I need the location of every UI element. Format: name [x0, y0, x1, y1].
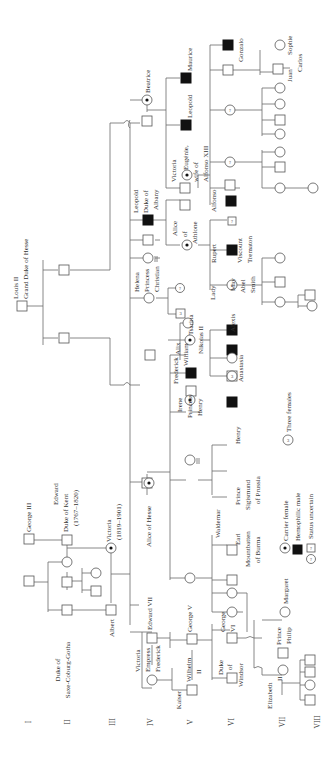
- label-leopold-albany: Albany: [152, 189, 160, 210]
- uncertain-mark: ?: [231, 219, 233, 224]
- label-rupert: Trematon: [246, 236, 254, 263]
- female-symbol-gen6-a: [227, 588, 237, 598]
- legend-hemophilic-male-icon: [293, 545, 302, 554]
- hemophilic-symbol-waldemar: [227, 397, 237, 407]
- male-symbol-gen8-b: [305, 655, 315, 665]
- male-symbol-gen7-b: [275, 162, 285, 172]
- label-edward-kent-dates: (1767–1820): [72, 489, 80, 526]
- male-symbol-gen5-athlone-spouse: [180, 200, 190, 210]
- label-sophie: Sophie: [286, 36, 294, 55]
- male-symbol-gen7-c: [275, 115, 285, 125]
- uncertain-female-gen8-a: [308, 183, 318, 193]
- uncertain-female-gen7-g: [275, 129, 285, 139]
- male-symbol-george-v: [187, 634, 197, 644]
- male-symbol-gen7-a: [275, 277, 285, 287]
- hemophilic-symbol-leopold: [181, 120, 191, 130]
- gen-label-7: VII: [278, 716, 287, 727]
- label-frederick-william: Frederick: [172, 357, 180, 384]
- hemophilic-symbol-alfonso: [226, 196, 236, 206]
- male-symbol-gen2: [62, 577, 72, 587]
- uncertain-female-gen7-e: [275, 83, 285, 93]
- hemophilic-symbol-gonzalo: [223, 40, 233, 50]
- label-prince-philip: Prince: [275, 627, 283, 645]
- uncertain-female-gen8-b: [307, 301, 317, 311]
- label-irene: Princess: [186, 394, 194, 418]
- male-symbol-george-iii: [24, 534, 34, 544]
- label-alice-athlone: of: [181, 231, 189, 238]
- uncertain-mark: ?: [179, 286, 181, 291]
- uncertain-mark: ?: [310, 557, 312, 562]
- male-symbol-edward-vii: [147, 633, 157, 643]
- male-symbol-duke-windsor: [227, 673, 237, 683]
- label-waldemar: Waldemar: [214, 509, 222, 538]
- label-victoria-dates: (1819–1901): [115, 503, 123, 540]
- label-victoria-eugenie: Alfonso XIII: [202, 145, 210, 182]
- label-elizabeth-ii: Elizabeth: [266, 682, 274, 709]
- female-symbol-helena: [144, 293, 154, 303]
- label-empress-frederick: Victoria: [134, 649, 142, 672]
- female-symbol-empress-frederick: [147, 675, 157, 685]
- male-symbol-gen6-a: [227, 575, 237, 585]
- label-george-vi: George: [219, 612, 227, 632]
- uncertain-female-gen7-b: [275, 297, 285, 307]
- gen-label-4: IV: [146, 717, 155, 725]
- male-symbol-edward-kent: [62, 535, 72, 545]
- female-symbol-sophie: [275, 40, 285, 50]
- label-lady-may: Smith: [249, 276, 257, 293]
- hemophilic-symbol-leopold-albany: [143, 215, 153, 225]
- name-labels: George III Edward Duke of Kent (1767–182…: [12, 36, 304, 710]
- male-symbol-gen5-b: [145, 350, 155, 360]
- male-symbol-gen6-c: [223, 65, 233, 75]
- female-symbol-gen4: [143, 253, 153, 263]
- label-victoria-eugenie: wife of: [192, 161, 200, 182]
- hemophilic-symbol-frederick-william: [186, 368, 196, 378]
- female-symbol-elizabeth-ii: [278, 665, 288, 675]
- label-victoria: Victoria: [105, 519, 113, 542]
- legend: Carrier female Hemophilic male ? ? Statu…: [280, 392, 316, 564]
- label-juan-carlos: Carlos: [296, 53, 304, 72]
- label-edward-kent: Duke of Kent: [62, 494, 70, 532]
- gen-label-6: VI: [227, 718, 236, 726]
- label-helena: Helena: [133, 271, 141, 292]
- gen-label-2: II: [63, 719, 72, 724]
- gen-label-5: V: [186, 719, 195, 725]
- male-symbol-george-vi: [227, 633, 237, 643]
- uncertain-mark: ?: [310, 546, 312, 551]
- label-mountbatten: Earl: [234, 533, 242, 545]
- gen-label-8: VIII: [313, 715, 322, 728]
- label-sigismund: Prince: [234, 487, 242, 505]
- relationship-lines: [27, 45, 310, 700]
- label-alexis: Alexis: [229, 313, 237, 332]
- label-edward-kent: Edward: [52, 483, 60, 505]
- male-symbol-gen5-c: [186, 386, 196, 396]
- male-symbol-kaiser-wilhelm: [187, 685, 197, 695]
- label-sigismund: Sigismund: [244, 480, 252, 510]
- male-symbol-henry-battenberg: [142, 116, 152, 126]
- label-empress-frederick: Empress: [144, 648, 152, 672]
- label-kaiser-wilhelm: Kaiser: [175, 690, 183, 709]
- uncertain-mark: ?: [229, 108, 231, 113]
- legend-three-females-label: Three females: [285, 392, 293, 432]
- label-elizabeth-ii: II: [276, 676, 284, 681]
- male-symbol-gen5: [180, 183, 190, 193]
- label-beatrice: Beatrice: [144, 70, 152, 93]
- female-symbol-gen2b: [91, 568, 101, 578]
- legend-status-uncertain-label: Status uncertain: [307, 494, 315, 539]
- label-alix: Alix: [174, 342, 182, 355]
- female-symbol-anastasia: [227, 353, 237, 363]
- label-leopold-albany: Leopold: [132, 189, 140, 213]
- male-symbol-saxe-coburg: [62, 605, 72, 615]
- label-duke-windsor: of: [226, 664, 234, 671]
- male-symbol-hesse-son2: [59, 333, 69, 343]
- male-symbol-albert: [106, 605, 116, 615]
- generation-labels: I II III IV V VI VII VIII: [24, 715, 322, 728]
- male-symbol-hesse-son1: [59, 265, 69, 275]
- label-lady-may: Abel: [239, 279, 247, 293]
- male-symbol-gen8-a: [305, 290, 315, 300]
- hemophilic-symbol-maurice: [181, 73, 191, 83]
- gen-label-1: I: [24, 720, 33, 723]
- label-maurice: Maurice: [186, 48, 194, 71]
- label-alice-hesse: Alice of Hesse: [145, 506, 153, 547]
- female-symbol-gen5-e: [185, 573, 195, 583]
- label-lady-may: Lady: [209, 285, 217, 300]
